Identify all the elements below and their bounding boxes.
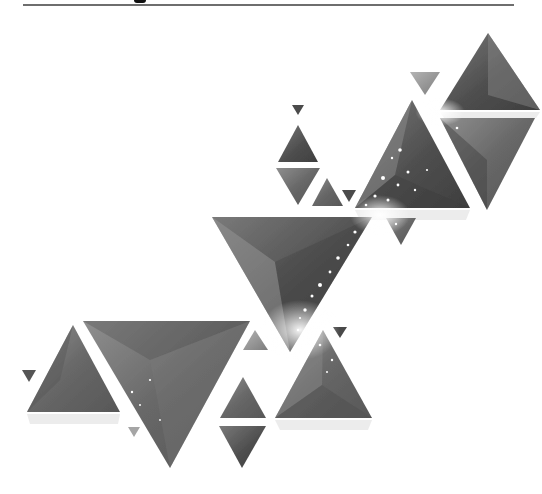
triangles <box>22 33 540 468</box>
triangle-tiny-down-mid <box>342 190 356 202</box>
triangle-tiny-top-down <box>292 105 304 115</box>
triangle-mid-up-lower <box>220 377 266 418</box>
triangle-stack-up <box>278 125 318 162</box>
triangle-small-mid-down <box>128 427 140 437</box>
triangle-illustration <box>0 0 542 494</box>
triangle-mid-down-lower <box>219 426 266 468</box>
triangle-tiny-left-down <box>22 370 36 382</box>
triangle-stack-down <box>276 168 320 205</box>
triangle-small-top-down <box>410 72 440 95</box>
triangle-small-up-mid <box>312 178 343 206</box>
